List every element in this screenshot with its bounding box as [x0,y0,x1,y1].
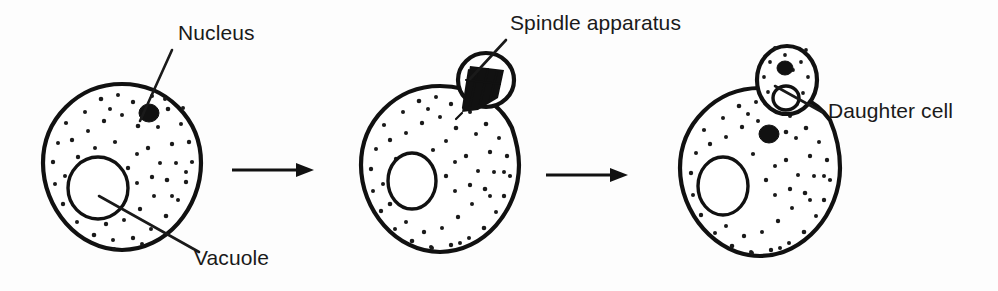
daughter-cell-nucleus [777,61,793,75]
stage-3-cell-with-daughter [680,46,840,256]
stage-1-mother-cell [43,84,201,251]
vacuole-stage-2 [388,153,436,209]
arrow-head [610,168,628,182]
nucleus-stage-3 [759,125,779,143]
arrow-stage1-to-stage2 [232,163,314,177]
arrow-head [296,163,314,177]
label-daughter-cell: Daughter cell [828,99,953,122]
stage-2-cell-with-spindle [361,53,519,252]
vacuole-stage-1 [68,157,128,219]
label-spindle-apparatus: Spindle apparatus [510,11,681,34]
cell-wall-outline-stage-2 [361,86,519,252]
diagram-canvas: Nucleus Vacuole Spindle apparatus Daught… [0,0,998,291]
label-vacuole: Vacuole [194,246,269,269]
vacuole-stage-3 [698,157,748,215]
label-nucleus: Nucleus [178,21,255,44]
yeast-budding-diagram: Nucleus Vacuole Spindle apparatus Daught… [0,0,998,291]
arrow-stage2-to-stage3 [546,168,628,182]
